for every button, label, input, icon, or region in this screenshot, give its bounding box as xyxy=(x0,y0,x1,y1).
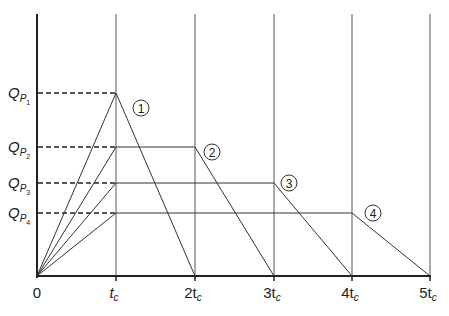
x-label-0: 0 xyxy=(33,284,41,301)
x-label-3tc: 3tc xyxy=(263,284,281,303)
x-label-tc: tc xyxy=(109,284,118,303)
curve-label-3: 3 xyxy=(281,175,297,191)
curve-number-3: 3 xyxy=(286,177,293,191)
x-axis-labels: 0 tc 2tc 3tc 4tc 5tc xyxy=(33,284,437,303)
vertical-gridlines xyxy=(116,14,430,276)
hydrograph-2 xyxy=(37,147,274,276)
curve-label-1: 1 xyxy=(133,100,149,116)
peak-dashed-lines xyxy=(38,93,116,213)
y-axis-labels: QP1 QP2 QP3 QP4 xyxy=(8,84,30,226)
curve-number-4: 4 xyxy=(370,207,377,221)
y-label-qp4: QP4 xyxy=(8,204,30,226)
y-label-qp1: QP1 xyxy=(8,84,30,106)
y-label-qp3: QP3 xyxy=(8,174,30,196)
x-label-4tc: 4tc xyxy=(341,284,359,303)
x-label-5tc: 5tc xyxy=(419,284,437,303)
curve-label-4: 4 xyxy=(365,205,381,221)
hydrograph-4 xyxy=(37,213,430,276)
curve-number-1: 1 xyxy=(138,102,145,116)
curve-label-2: 2 xyxy=(204,144,220,160)
curve-number-2: 2 xyxy=(209,146,216,160)
y-label-qp2: QP2 xyxy=(8,138,30,160)
x-label-2tc: 2tc xyxy=(184,284,202,303)
hydrograph-diagram: 1 2 3 4 QP1 QP2 QP3 QP4 0 tc 2tc 3tc 4tc… xyxy=(0,0,449,316)
hydrograph-curves xyxy=(37,93,430,276)
